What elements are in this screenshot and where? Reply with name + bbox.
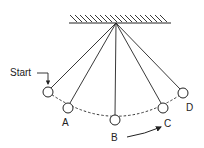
label-d: D — [186, 102, 193, 113]
bob-start — [43, 87, 53, 97]
label-c: C — [164, 118, 171, 129]
label-start: Start — [10, 67, 31, 78]
bob-a — [63, 103, 73, 113]
direction-arrow — [127, 127, 161, 137]
pendulum-strings — [51, 23, 180, 115]
start-arrow — [37, 73, 48, 84]
ceiling-support — [69, 15, 171, 23]
pendulum-diagram: Start A B C D — [0, 0, 204, 148]
label-a: A — [62, 117, 69, 128]
bob-b — [110, 115, 120, 125]
bob-c — [158, 103, 168, 113]
bob-d — [178, 88, 188, 98]
label-b: B — [111, 132, 118, 143]
